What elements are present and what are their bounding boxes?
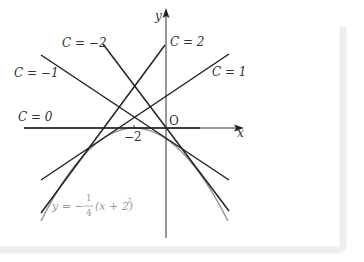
tangent-lines-figure: y x O −2 C = −2 C = −1 C = 0 C = 1 C = 2… bbox=[0, 0, 364, 262]
label-c-2: C = 2 bbox=[170, 35, 205, 49]
diagram-canvas: y x O −2 C = −2 C = −1 C = 0 C = 1 C = 2… bbox=[0, 0, 364, 262]
equation-denominator: 4 bbox=[86, 208, 92, 218]
y-axis-label: y bbox=[154, 9, 162, 23]
label-c-1: C = 1 bbox=[212, 65, 247, 79]
equation-numerator: 1 bbox=[86, 193, 92, 203]
frame-border bbox=[0, 27, 343, 250]
parabola-equation-label: y = − 1 4 (x + 2) 2 bbox=[51, 193, 133, 218]
label-c-minus-2: C = −2 bbox=[62, 36, 107, 50]
equation-exponent: 2 bbox=[127, 197, 131, 205]
label-c-0: C = 0 bbox=[18, 110, 53, 124]
tick-label-minus-2: −2 bbox=[124, 130, 142, 144]
x-axis-label: x bbox=[237, 126, 244, 140]
origin-label: O bbox=[169, 114, 179, 128]
label-c-minus-1: C = −1 bbox=[14, 66, 59, 80]
equation-lhs: y = − bbox=[51, 200, 84, 213]
